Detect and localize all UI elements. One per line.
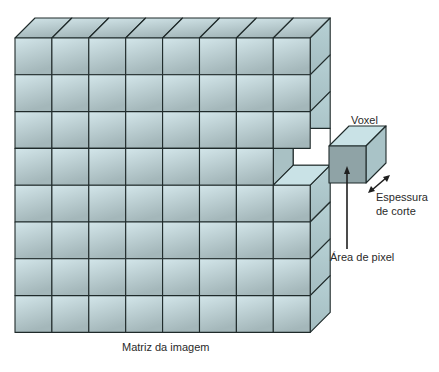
pixel-cell bbox=[236, 185, 273, 222]
pixel-cell bbox=[200, 185, 237, 222]
pixel-cell bbox=[52, 75, 89, 112]
pixel-cell bbox=[52, 112, 89, 149]
matrix-caption: Matriz da imagem bbox=[122, 341, 209, 354]
pixel-cell bbox=[273, 222, 310, 259]
pixel-cell bbox=[89, 185, 126, 222]
image-matrix-diagram bbox=[0, 0, 439, 372]
pixel-cell bbox=[52, 296, 89, 333]
pixel-cell bbox=[163, 148, 200, 185]
pixel-cell bbox=[200, 38, 237, 75]
pixel-cell bbox=[126, 38, 163, 75]
pixel-cell bbox=[126, 259, 163, 296]
pixel-cell bbox=[273, 112, 310, 149]
pixel-cell bbox=[163, 259, 200, 296]
pixel-cell bbox=[200, 148, 237, 185]
pixel-cell bbox=[15, 38, 52, 75]
pixel-cell bbox=[52, 259, 89, 296]
pixel-cell bbox=[236, 112, 273, 149]
thickness-arrowhead-a bbox=[368, 186, 375, 193]
pixel-cell bbox=[15, 148, 52, 185]
pixel-cell bbox=[126, 112, 163, 149]
pixel-cell bbox=[200, 296, 237, 333]
pixel-cell bbox=[89, 75, 126, 112]
pixel-cell bbox=[273, 296, 310, 333]
pixel-cell bbox=[89, 296, 126, 333]
pixel-cell bbox=[15, 259, 52, 296]
pixel-cell bbox=[163, 222, 200, 259]
pixel-cell bbox=[273, 185, 310, 222]
pixel-cell bbox=[163, 112, 200, 149]
pixel-cell bbox=[200, 75, 237, 112]
slice-thickness-label-line1: Espessura bbox=[376, 191, 428, 204]
pixel-cell bbox=[163, 38, 200, 75]
pixel-cell bbox=[126, 75, 163, 112]
pixel-cell bbox=[126, 148, 163, 185]
thickness-arrowhead-b bbox=[383, 175, 390, 182]
pixel-cell bbox=[236, 148, 273, 185]
thickness-arrow bbox=[372, 178, 386, 190]
pixel-cell bbox=[236, 296, 273, 333]
pixel-cell bbox=[126, 296, 163, 333]
pixel-cell bbox=[273, 259, 310, 296]
pixel-cell bbox=[89, 259, 126, 296]
pixel-cell bbox=[52, 148, 89, 185]
pixel-cell bbox=[163, 296, 200, 333]
image-matrix bbox=[15, 18, 330, 332]
voxel-label: Voxel bbox=[351, 114, 378, 127]
pixel-cell bbox=[126, 222, 163, 259]
pixel-cell bbox=[200, 112, 237, 149]
pixel-cell bbox=[236, 38, 273, 75]
pixel-cell bbox=[15, 75, 52, 112]
pixel-cell bbox=[273, 38, 310, 75]
pixel-cell bbox=[163, 75, 200, 112]
pixel-cell bbox=[163, 185, 200, 222]
pixel-cell bbox=[15, 185, 52, 222]
pixel-cell bbox=[15, 222, 52, 259]
pixel-cell bbox=[89, 112, 126, 149]
pixel-cell bbox=[126, 185, 163, 222]
pixel-cell bbox=[236, 259, 273, 296]
pixel-cell bbox=[52, 38, 89, 75]
voxel-cube bbox=[329, 126, 386, 183]
pixel-cell bbox=[52, 185, 89, 222]
pixel-cell bbox=[236, 75, 273, 112]
pixel-cell bbox=[52, 222, 89, 259]
pixel-cell bbox=[15, 112, 52, 149]
pixel-area-label: Área de pixel bbox=[330, 251, 394, 264]
slice-thickness-label-line2: de corte bbox=[376, 205, 416, 218]
pixel-cell bbox=[236, 222, 273, 259]
pixel-cell bbox=[273, 75, 310, 112]
pixel-cell bbox=[200, 222, 237, 259]
pixel-cell bbox=[89, 148, 126, 185]
pixel-cell bbox=[89, 38, 126, 75]
pixel-cell bbox=[15, 296, 52, 333]
pixel-cell bbox=[89, 222, 126, 259]
pixel-cell bbox=[200, 259, 237, 296]
